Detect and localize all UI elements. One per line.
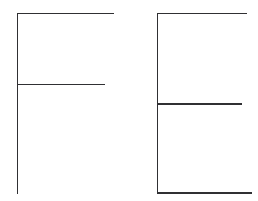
canvas-background: [0, 0, 258, 201]
letterform-figure-group: [0, 0, 258, 201]
drawing-canvas: [0, 0, 258, 201]
